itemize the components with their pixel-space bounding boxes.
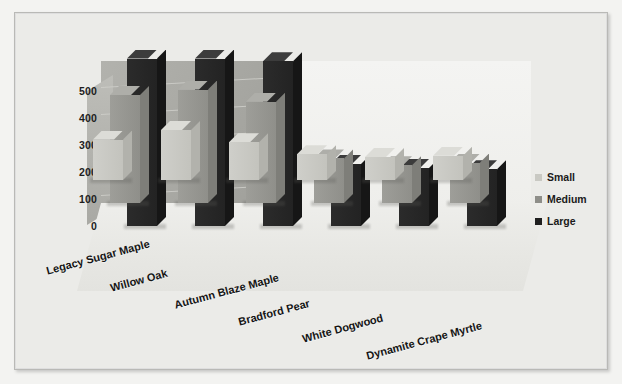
bar-top [195, 50, 225, 59]
category-label-6: Dynamite Crape Myrtle [365, 319, 483, 361]
bar-side [293, 52, 302, 226]
bar-small-2[interactable] [161, 130, 191, 180]
legend-label-medium: Medium [547, 193, 587, 205]
legend-swatch-large-icon [535, 218, 542, 225]
bar-top [127, 50, 157, 59]
bar-small-1[interactable] [93, 140, 123, 181]
bar-face [161, 130, 191, 180]
y-axis: 500 400 300 200 100 0 [43, 13, 97, 369]
bar-face [365, 157, 395, 180]
bar-small-4[interactable] [297, 154, 327, 180]
y-tick-400: 400 [79, 112, 97, 124]
bar-side [140, 86, 149, 203]
bar-face [433, 156, 463, 180]
legend-item-large[interactable]: Large [535, 215, 615, 227]
bar-small-6[interactable] [433, 156, 463, 180]
bar-side [191, 121, 200, 180]
y-tick-0: 0 [91, 220, 97, 232]
bar-side [225, 50, 234, 226]
legend-label-large: Large [547, 215, 576, 227]
bar-side [208, 81, 217, 203]
bar-face [229, 142, 259, 180]
chart-legend: Small Medium Large [535, 171, 615, 237]
category-label-4: Bradford Pear [237, 297, 311, 328]
y-tick-500: 500 [79, 85, 97, 97]
legend-swatch-small-icon [535, 174, 542, 181]
bar-side [497, 160, 506, 226]
chart-frame: 500 400 300 200 100 0 Legacy Sugar Maple… [14, 12, 608, 370]
legend-label-small: Small [547, 171, 575, 183]
bar-face [93, 140, 123, 181]
legend-swatch-medium-icon [535, 196, 542, 203]
y-tick-100: 100 [79, 193, 97, 205]
screenshot-root: 500 400 300 200 100 0 Legacy Sugar Maple… [0, 0, 622, 384]
category-label-5: White Dogwood [301, 311, 384, 344]
bar-small-5[interactable] [365, 157, 395, 180]
bar-top [263, 52, 293, 61]
bar-small-3[interactable] [229, 142, 259, 180]
chart-page: 500 400 300 200 100 0 Legacy Sugar Maple… [0, 0, 622, 384]
legend-item-small[interactable]: Small [535, 171, 615, 183]
bar-face [297, 154, 327, 180]
bar-side [344, 149, 353, 203]
bar-side [276, 93, 285, 203]
chart-3d-scene: 500 400 300 200 100 0 Legacy Sugar Maple… [15, 13, 607, 369]
legend-item-medium[interactable]: Medium [535, 193, 615, 205]
